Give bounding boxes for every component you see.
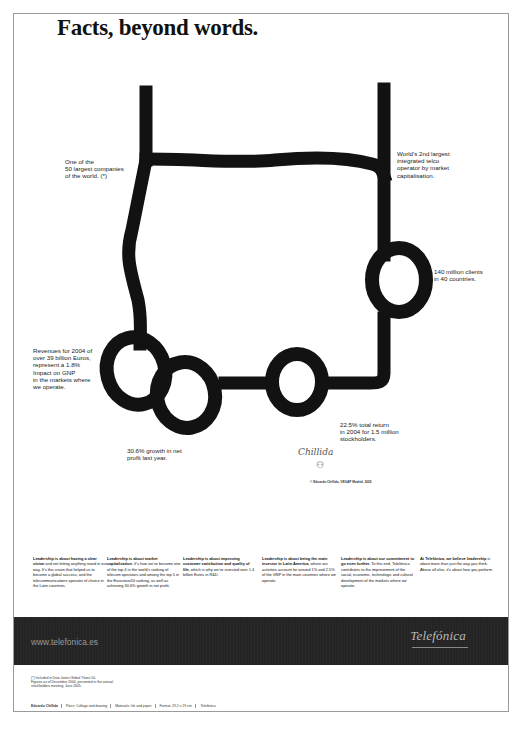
brand-band: www.telefonica.es Telefónica — [14, 617, 508, 665]
callout-telco-operator: World's 2nd largest integrated telco ope… — [397, 150, 450, 179]
leadership-columns: Leadership is about having a clear visio… — [33, 556, 503, 606]
callout-largest-companies: One of the 50 largest companies of the w… — [65, 158, 124, 180]
callout-total-return: 22.5% total return in 2004 for 1.5 milli… — [340, 421, 399, 443]
artist-signature: Chillida — [298, 447, 333, 457]
column-body: and not letting anything stand in our wa… — [33, 561, 107, 588]
leadership-column: Leadership is about having a clear visio… — [33, 556, 107, 588]
leadership-column: Leadership is about being the main inves… — [262, 556, 336, 583]
website-link[interactable]: www.telefonica.es — [31, 637, 98, 647]
callout-clients: 140 million clients in 40 countries. — [434, 268, 483, 282]
leadership-column: Leadership is about improving customer s… — [183, 556, 257, 578]
credit-piece: Piece: Collage and drawing — [63, 704, 111, 708]
leadership-column: Leadership is about our commitment to go… — [341, 556, 415, 588]
credit-artist: Eduardo Chillida — [31, 704, 62, 708]
footnote: (*) Included in Dow Jones Global Titans … — [31, 676, 121, 689]
leadership-column: At Telefónica, we believe leadership is … — [420, 556, 494, 572]
callout-revenues: Revenues for 2004 of over 39 billion Eur… — [33, 347, 92, 390]
artwork-copyright: © Eduardo Chillida, VEGAP Madrid, 2005 — [310, 480, 372, 484]
credit-format: Format: 29.2 x 19 cm. — [156, 704, 196, 708]
callout-net-profit-growth: 30.6% growth in net profit last year. — [127, 447, 182, 461]
logo-underline — [412, 647, 468, 648]
artwork-credits: Eduardo Chillida Piece: Collage and draw… — [31, 704, 219, 708]
column-lead: At Telefónica, we believe leadership — [420, 556, 486, 561]
telefonica-logo: Telefónica — [410, 628, 466, 644]
signature-mark-icon: ⚇ — [316, 460, 324, 470]
credit-brand: Telefónica — [197, 704, 218, 708]
leadership-column: Leadership is about market capitalisatio… — [107, 556, 181, 588]
credit-materials: Materials: Ink and paper — [112, 704, 155, 708]
column-body: which is why we've invested over 1.4 bil… — [183, 567, 254, 577]
